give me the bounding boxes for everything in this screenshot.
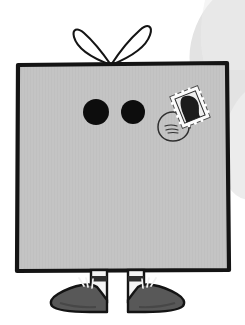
right-eye: [121, 100, 145, 124]
left-eye: [83, 99, 109, 125]
illustration-canvas: Envelope Character Mascot A large gray s…: [0, 0, 245, 325]
envelope-character-illustration: [0, 0, 245, 325]
